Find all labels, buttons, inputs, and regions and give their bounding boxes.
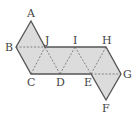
vertex-label-C: C (27, 76, 35, 89)
octahedron-net-diagram: A B J I H C D E G F (0, 0, 138, 121)
vertex-label-D: D (56, 76, 65, 89)
vertex-label-I: I (73, 34, 77, 47)
vertex-label-B: B (5, 41, 13, 54)
vertex-label-F: F (102, 102, 110, 115)
vertex-label-G: G (123, 68, 132, 81)
vertex-label-E: E (84, 76, 92, 89)
vertex-label-J: J (44, 34, 49, 47)
vertex-label-A: A (26, 7, 36, 20)
vertex-label-H: H (102, 34, 112, 47)
